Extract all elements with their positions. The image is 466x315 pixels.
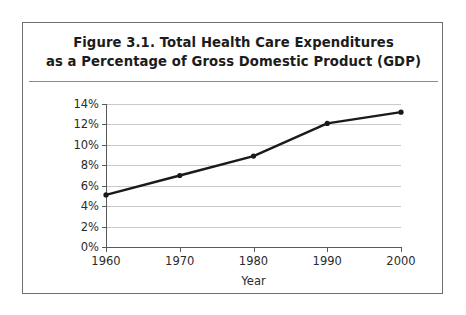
figure-title: Figure 3.1. Total Health Care Expenditur… xyxy=(23,33,444,71)
data-point-marker xyxy=(251,153,256,158)
x-axis-tick-mark xyxy=(106,247,107,252)
x-axis-tick-label: 2000 xyxy=(386,254,415,268)
y-axis-tick-label: 10% xyxy=(73,138,99,152)
chart-plot-area: 0%2%4%6%8%10%12%14% 19601970198019902000… xyxy=(106,104,401,247)
x-axis-title: Year xyxy=(106,274,401,288)
y-axis-tick-label: 8% xyxy=(81,158,99,172)
x-axis-tick-mark xyxy=(327,247,328,252)
data-point-marker xyxy=(398,110,403,115)
x-axis-tick-mark xyxy=(180,247,181,252)
y-axis-tick-label: 14% xyxy=(73,97,99,111)
figure-title-line-1: Figure 3.1. Total Health Care Expenditur… xyxy=(73,35,394,50)
data-point-marker xyxy=(103,192,108,197)
y-axis-tick-label: 2% xyxy=(81,220,99,234)
y-axis-tick-label: 6% xyxy=(81,179,99,193)
y-axis-tick-label: 4% xyxy=(81,199,99,213)
x-axis-tick-label: 1960 xyxy=(91,254,120,268)
y-axis-tick-label: 12% xyxy=(73,117,99,131)
y-axis-tick-label: 0% xyxy=(81,240,99,254)
x-axis-tick-label: 1990 xyxy=(313,254,342,268)
x-axis-tick-label: 1970 xyxy=(165,254,194,268)
figure-title-line-2: as a Percentage of Gross Domestic Produc… xyxy=(23,52,444,71)
figure-frame: Figure 3.1. Total Health Care Expenditur… xyxy=(22,22,443,294)
data-point-marker xyxy=(325,121,330,126)
x-axis-tick-mark xyxy=(401,247,402,252)
title-divider-rule xyxy=(29,81,438,82)
x-axis-tick-label: 1980 xyxy=(239,254,268,268)
x-axis-tick-mark xyxy=(254,247,255,252)
line-series-svg xyxy=(106,104,401,247)
data-point-marker xyxy=(177,173,182,178)
